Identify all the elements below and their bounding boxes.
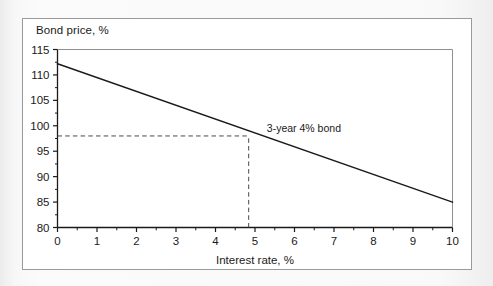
x-tick-label: 9 [410,235,416,247]
x-tick-label: 2 [133,235,139,247]
figure-page: Bond price, % 80859095100105110115012345… [0,0,493,286]
x-tick-label: 4 [212,235,219,247]
y-tick-label: 110 [31,69,49,81]
y-tick-label: 115 [31,44,49,56]
chart-svg: 80859095100105110115012345678910Interest… [0,0,493,286]
y-tick-label: 85 [37,196,50,208]
data-line-3-year-4-bond [58,64,453,202]
y-tick-label: 100 [30,120,49,132]
x-tick-label: 7 [331,235,337,247]
x-tick-label: 0 [54,235,60,247]
x-tick-label: 3 [173,235,179,247]
x-axis-title: Interest rate, % [216,254,294,266]
y-tick-label: 80 [37,222,50,234]
x-tick-label: 8 [370,235,376,247]
x-tick-label: 6 [291,235,297,247]
x-tick-label: 1 [94,235,100,247]
y-tick-label: 105 [30,94,49,106]
x-tick-label: 5 [252,235,258,247]
x-tick-label: 10 [446,235,459,247]
y-tick-label: 90 [37,171,50,183]
y-tick-label: 95 [37,145,50,157]
series-annotation: 3-year 4% bond [267,122,341,134]
